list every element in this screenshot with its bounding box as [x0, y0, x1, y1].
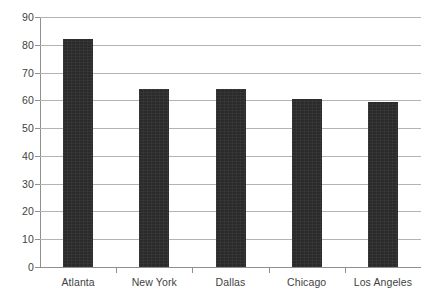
y-axis-tick-label: 30	[4, 179, 34, 190]
bar	[292, 99, 322, 267]
y-axis-tick-mark	[35, 239, 40, 240]
x-axis-line	[40, 267, 421, 268]
x-axis-tick-label: Los Angeles	[345, 276, 421, 288]
y-axis-tick-mark	[35, 184, 40, 185]
y-axis-tick-label: 50	[4, 123, 34, 134]
bar	[216, 89, 246, 267]
y-axis-tick-mark	[35, 100, 40, 101]
y-axis-tick-labels: 0102030405060708090	[0, 0, 34, 302]
x-axis-tick-label: Atlanta	[40, 276, 116, 288]
y-axis-tick-label: 70	[4, 68, 34, 79]
y-axis-tick-label: 10	[4, 234, 34, 245]
y-axis-tick-mark	[35, 128, 40, 129]
plot-area	[40, 17, 421, 267]
y-axis-tick-label: 60	[4, 95, 34, 106]
x-axis-tick-label: Dallas	[192, 276, 268, 288]
y-axis-tick-mark	[35, 156, 40, 157]
y-axis-tick-mark	[35, 267, 40, 268]
gridline	[40, 17, 421, 18]
bar-chart: 0102030405060708090 AtlantaNew YorkDalla…	[0, 0, 434, 302]
y-axis-tick-label: 20	[4, 206, 34, 217]
x-axis-tick-mark	[192, 268, 193, 273]
x-axis-tick-mark	[269, 268, 270, 273]
gridline	[40, 73, 421, 74]
bar	[139, 89, 169, 267]
y-axis-tick-label: 80	[4, 40, 34, 51]
y-axis-tick-label: 40	[4, 151, 34, 162]
y-axis-tick-mark	[35, 73, 40, 74]
bar	[368, 102, 398, 267]
gridline	[40, 45, 421, 46]
x-axis-tick-label: New York	[116, 276, 192, 288]
y-axis-tick-mark	[35, 211, 40, 212]
x-axis-tick-label: Chicago	[269, 276, 345, 288]
y-axis-tick-label: 0	[4, 262, 34, 273]
x-axis-tick-mark	[345, 268, 346, 273]
bar	[63, 39, 93, 267]
y-axis-tick-label: 90	[4, 12, 34, 23]
y-axis-tick-mark	[35, 17, 40, 18]
y-axis-tick-mark	[35, 45, 40, 46]
x-axis-tick-mark	[116, 268, 117, 273]
